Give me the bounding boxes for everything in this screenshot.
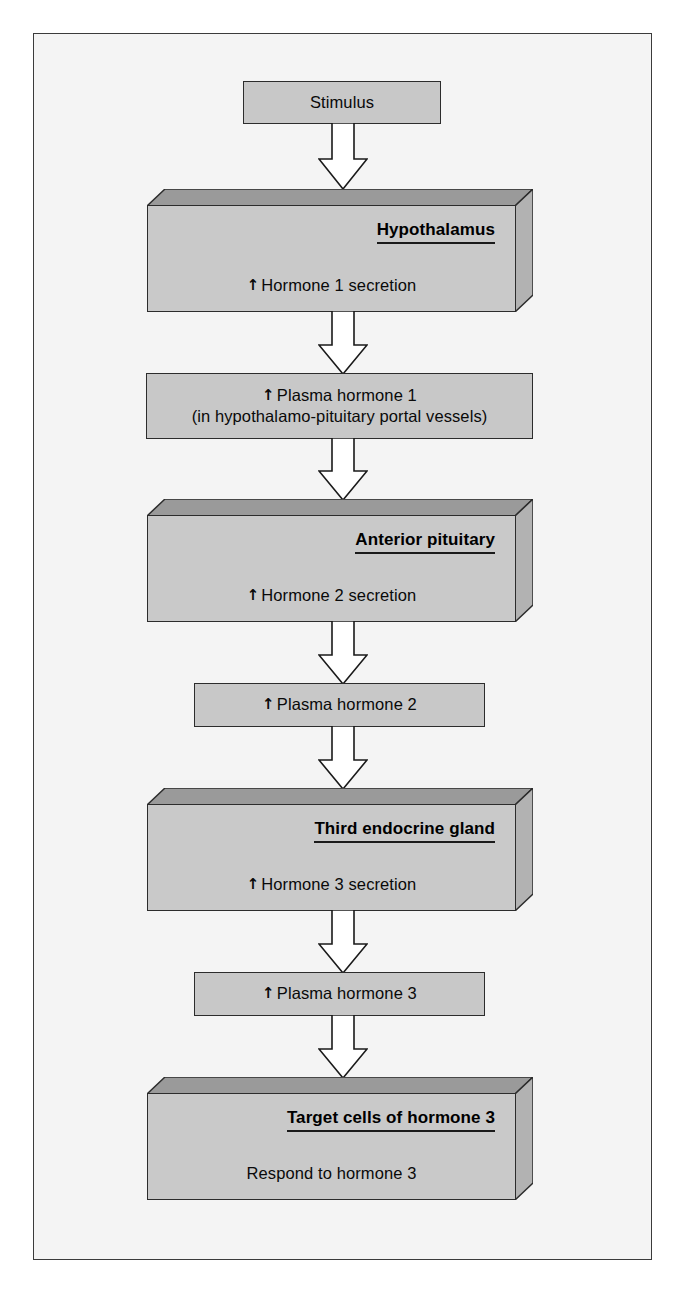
hypothalamus-title: Hypothalamus [377, 220, 495, 244]
arrow-plasma3-to-target [318, 1015, 368, 1079]
plasma-hormone-2-text: Plasma hormone 2 [277, 695, 417, 713]
plasma-hormone-1-line-1: ↑↑ Plasma hormone 1Plasma hormone 1 [262, 385, 417, 406]
stimulus-label: Stimulus [310, 92, 374, 113]
node-target-cells: Target cells of hormone 3 Respond to hor… [147, 1077, 533, 1200]
anterior-pituitary-front-face: Anterior pituitary ↑Hormone 2 secretion [147, 515, 516, 622]
arrow-hypothalamus-to-plasma1 [318, 311, 368, 375]
up-arrow-icon: ↑ [262, 695, 275, 713]
node-hypothalamus: Hypothalamus ↑Hormone 1 secretion [147, 189, 533, 312]
up-arrow-icon: ↑ [247, 586, 260, 604]
up-arrow-icon: ↑ [247, 875, 260, 893]
plasma-hormone-3-line-1: ↑Plasma hormone 3 [262, 983, 417, 1004]
anterior-pituitary-body: ↑Hormone 2 secretion [148, 586, 515, 605]
plasma-hormone-1-line-2: (in hypothalamo-pituitary portal vessels… [192, 406, 488, 427]
hypothalamus-front-face: Hypothalamus ↑Hormone 1 secretion [147, 205, 516, 312]
target-cells-title: Target cells of hormone 3 [287, 1108, 495, 1132]
anterior-pituitary-body-text: Hormone 2 secretion [261, 586, 416, 604]
up-arrow-icon: ↑ [262, 984, 275, 1002]
arrow-plasma2-to-third [318, 726, 368, 790]
target-cells-front-face: Target cells of hormone 3 Respond to hor… [147, 1093, 516, 1200]
target-cells-body: Respond to hormone 3 [148, 1164, 515, 1183]
node-plasma-hormone-2: ↑Plasma hormone 2 [194, 683, 485, 727]
up-arrow-icon: ↑ [247, 276, 260, 294]
node-anterior-pituitary: Anterior pituitary ↑Hormone 2 secretion [147, 499, 533, 622]
node-stimulus: Stimulus [243, 81, 441, 124]
endocrine-cascade-figure: Stimulus Hypothalamus ↑Hormone 1 secreti… [33, 33, 652, 1260]
diagram-canvas: Stimulus Hypothalamus ↑Hormone 1 secreti… [34, 34, 651, 1259]
third-endocrine-gland-title: Third endocrine gland [314, 819, 495, 843]
node-plasma-hormone-1: ↑↑ Plasma hormone 1Plasma hormone 1 (in … [146, 373, 533, 439]
third-endocrine-gland-body-text: Hormone 3 secretion [261, 875, 416, 893]
third-endocrine-gland-body: ↑Hormone 3 secretion [148, 875, 515, 894]
node-plasma-hormone-3: ↑Plasma hormone 3 [194, 972, 485, 1016]
arrow-third-to-plasma3 [318, 910, 368, 974]
arrow-plasma1-to-anterior [318, 438, 368, 501]
plasma-hormone-2-line-1: ↑Plasma hormone 2 [262, 694, 417, 715]
third-endocrine-gland-front-face: Third endocrine gland ↑Hormone 3 secreti… [147, 804, 516, 911]
hypothalamus-body: ↑Hormone 1 secretion [148, 276, 515, 295]
node-third-endocrine-gland: Third endocrine gland ↑Hormone 3 secreti… [147, 788, 533, 911]
plasma-hormone-3-text: Plasma hormone 3 [277, 984, 417, 1002]
arrow-stimulus-to-hypothalamus [318, 123, 368, 190]
arrow-anterior-to-plasma2 [318, 621, 368, 685]
anterior-pituitary-title: Anterior pituitary [355, 530, 495, 554]
hypothalamus-body-text: Hormone 1 secretion [261, 276, 416, 294]
up-arrow-icon: ↑ [262, 386, 275, 404]
